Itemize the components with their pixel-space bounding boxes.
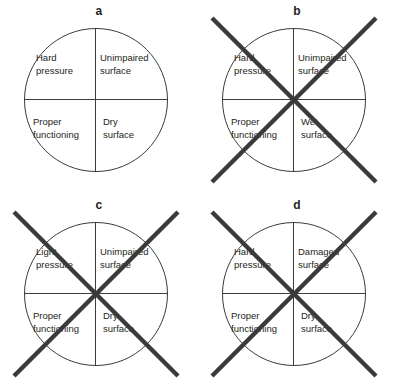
quadrant-top-left-label-a: Hard pressure xyxy=(36,52,92,77)
quadrant-top-right-label-b: Unimpaired surface xyxy=(298,52,362,77)
vertical-divider-c xyxy=(95,222,96,366)
diagram-a: Hard pressure Unimpaired surface Proper … xyxy=(0,0,198,193)
vertical-divider-b xyxy=(293,28,294,172)
quadrant-top-right-label-d: Damaged surface xyxy=(298,246,362,271)
horizontal-divider-c xyxy=(24,293,168,294)
quadrant-bottom-left-label-d: Proper functioning xyxy=(231,310,293,335)
quadrant-top-left-label-d: Hard pressure xyxy=(234,246,290,271)
diagram-d: Hard pressure Damaged surface Proper fun… xyxy=(198,194,396,387)
horizontal-divider-b xyxy=(222,99,366,100)
quadrant-bottom-left-label-b: Proper functioning xyxy=(231,116,293,141)
circle-outline-c xyxy=(24,222,168,366)
quadrant-bottom-right-label-a: Dry surface xyxy=(103,116,163,141)
panel-a: a Hard pressure Unimpaired surface Prope… xyxy=(0,0,198,193)
horizontal-divider-a xyxy=(24,99,168,100)
horizontal-divider-d xyxy=(222,293,366,294)
quadrant-top-left-label-c: Light pressure xyxy=(36,246,92,271)
vertical-divider-a xyxy=(95,28,96,172)
panel-d: d Hard pressure Damaged surface Proper f… xyxy=(198,194,396,387)
circle-outline-a xyxy=(24,28,168,172)
diagram-c: Light pressure Unimpaired surface Proper… xyxy=(0,194,198,387)
quadrant-bottom-right-label-c: Dry surface xyxy=(103,310,163,335)
quadrant-bottom-left-label-c: Proper functioning xyxy=(33,310,95,335)
quadrant-top-left-label-b: Hard pressure xyxy=(234,52,290,77)
quadrant-bottom-right-label-d: Dry surface xyxy=(301,310,361,335)
circle-outline-b xyxy=(222,28,366,172)
quadrant-bottom-right-label-b: Wet surface xyxy=(301,116,361,141)
quadrant-top-right-label-a: Unimpaired surface xyxy=(100,52,164,77)
panel-b: b Hard pressure Unimpaired surface Prope… xyxy=(198,0,396,193)
quadrant-top-right-label-c: Unimpaired surface xyxy=(100,246,164,271)
vertical-divider-d xyxy=(293,222,294,366)
quadrant-bottom-left-label-a: Proper functioning xyxy=(33,116,95,141)
circle-outline-d xyxy=(222,222,366,366)
figure-container: a Hard pressure Unimpaired surface Prope… xyxy=(0,0,396,387)
panel-c: c Light pressure Unimpaired surface Prop… xyxy=(0,194,198,387)
diagram-b: Hard pressure Unimpaired surface Proper … xyxy=(198,0,396,193)
